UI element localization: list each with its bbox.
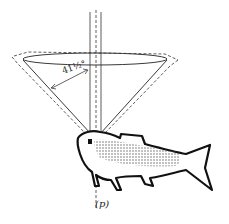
vertical-beam (90, 12, 101, 134)
fish-vision-diagram: 41½° (p) (0, 0, 229, 224)
fish (78, 131, 212, 190)
vision-cone (23, 60, 167, 134)
point-label: (p) (95, 199, 109, 209)
cone-rim-ellipse (23, 53, 167, 65)
fish-eye (88, 139, 92, 144)
refracted-cone-dashed (12, 52, 178, 134)
